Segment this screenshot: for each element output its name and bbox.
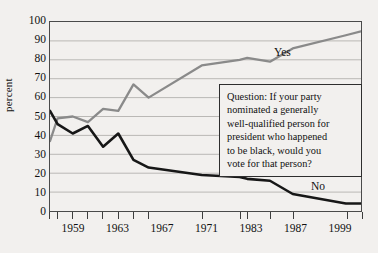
y-tick-label: 40 (12, 130, 46, 142)
x-tick-label: 1987 (284, 222, 307, 234)
y-tick-label: 20 (12, 168, 46, 180)
x-tick-mark (133, 212, 134, 219)
y-tick-label: 50 (12, 111, 46, 123)
x-tick-mark (362, 212, 363, 219)
x-tick-mark (270, 212, 271, 219)
x-tick-mark (118, 212, 119, 219)
question-annotation-box: Question: If your partynominated a gener… (219, 84, 362, 177)
question-line: president who happened (227, 130, 355, 143)
x-tick-mark (57, 212, 58, 219)
x-tick-label: 1967 (151, 222, 174, 234)
x-tick-mark (72, 212, 73, 219)
y-tick-label: 60 (12, 91, 46, 103)
x-tick-mark (148, 212, 149, 219)
question-line: nominated a generally (227, 103, 355, 116)
y-tick-label: 10 (12, 187, 46, 199)
y-tick-label: 90 (12, 34, 46, 46)
x-tick-label: 1983 (240, 222, 263, 234)
y-tick-label: 70 (12, 72, 46, 84)
question-line: to be black, would you (227, 144, 355, 157)
y-tick-label: 0 (12, 206, 46, 218)
x-tick-label: 1999 (329, 222, 352, 234)
x-tick-mark (202, 212, 203, 219)
y-tick-label: 100 (12, 15, 46, 27)
x-tick-mark (49, 212, 50, 219)
x-tick-label: 1971 (195, 222, 218, 234)
x-tick-mark (102, 212, 103, 219)
poll-line-chart: percent 0102030405060708090100 195919631… (0, 0, 378, 253)
x-axis-ticks (49, 212, 362, 222)
x-axis-labels: 1959196319671971198319871999 (0, 222, 378, 242)
x-tick-mark (347, 212, 348, 219)
x-tick-mark (87, 212, 88, 219)
x-tick-label: 1963 (106, 222, 129, 234)
question-line: Question: If your party (227, 90, 355, 103)
x-tick-mark (247, 212, 248, 219)
x-tick-label: 1959 (62, 222, 85, 234)
series-label-no: No (311, 180, 325, 192)
question-line: well-qualified person for (227, 117, 355, 130)
series-label-yes: Yes (274, 46, 291, 58)
y-tick-label: 80 (12, 53, 46, 65)
y-axis-ticks: 0102030405060708090100 (6, 0, 46, 253)
x-tick-mark (240, 212, 241, 219)
x-tick-mark (293, 212, 294, 219)
question-line: vote for that person? (227, 157, 355, 170)
y-tick-label: 30 (12, 149, 46, 161)
